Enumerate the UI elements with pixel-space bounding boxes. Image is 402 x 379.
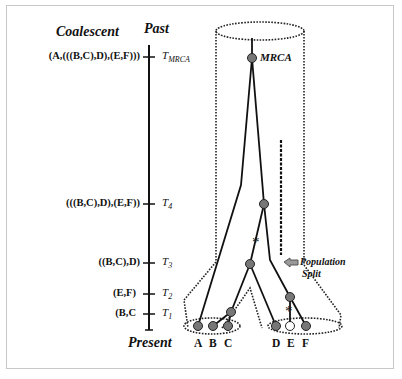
node-bc: [227, 308, 236, 317]
mrca-label: MRCA: [260, 51, 292, 63]
leaf-label-a: A: [194, 337, 202, 349]
newick-label-t1: (B,C: [115, 307, 136, 318]
time-label-t2: T2: [162, 286, 172, 301]
leaf-label-c: C: [224, 337, 232, 349]
present-heading: Present: [128, 335, 172, 351]
leaf-node-e: [286, 322, 295, 331]
node-t4: [260, 200, 269, 209]
mutation-marker-icon: *: [285, 303, 293, 320]
leaf-node-b: [209, 322, 218, 331]
gene-tree: [198, 38, 306, 326]
leaf-node-d: [272, 322, 281, 331]
past-heading: Past: [144, 21, 169, 37]
node-t3: [246, 260, 255, 269]
newick-label-t4: (((B,C),D),(E,F)): [66, 197, 140, 208]
mutation-marker-icon: *: [252, 234, 260, 251]
population-boundary: [184, 22, 342, 334]
node-mrca: [248, 54, 257, 63]
leaf-label-d: D: [272, 337, 280, 349]
tree-nodes: [194, 54, 311, 331]
node-ef: [286, 293, 295, 302]
population-split-label: Population Split: [300, 256, 346, 280]
leaf-node-a: [194, 322, 203, 331]
time-label-tmrca: TMRCA: [162, 49, 190, 64]
leaf-node-c: [224, 322, 233, 331]
newick-label-tmrca: (A,(((B,C),D),(E,F))): [49, 50, 140, 61]
leaf-label-b: B: [209, 337, 217, 349]
annotation-line-1: Population: [300, 256, 346, 268]
leaf-label-e: E: [287, 337, 295, 349]
time-label-t4: T4: [162, 196, 172, 211]
time-label-t3: T3: [162, 255, 172, 270]
annotation-line-2: Split: [300, 268, 346, 280]
leaf-node-f: [302, 322, 311, 331]
leaf-label-f: F: [302, 337, 309, 349]
population-split-arrow-icon: [284, 258, 298, 267]
newick-label-t2: (E,F): [113, 287, 136, 298]
time-label-t1: T1: [162, 306, 172, 321]
coalescent-heading: Coalescent: [56, 24, 119, 40]
newick-label-t3: ((B,C),D): [99, 256, 140, 267]
